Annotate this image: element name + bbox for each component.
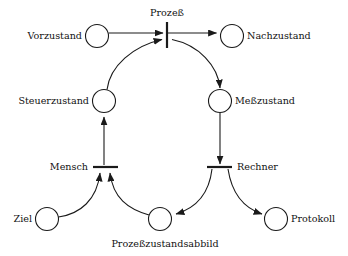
label-mensch: Mensch bbox=[50, 161, 88, 172]
place-prozesszustandsabbild[interactable] bbox=[149, 208, 172, 231]
petri-net-diagram: Vorzustand Nachzustand Steuerzustand Meß… bbox=[0, 0, 348, 256]
place-protokoll[interactable] bbox=[265, 208, 288, 231]
label-rechner: Rechner bbox=[237, 161, 278, 172]
label-prozesszustandsabbild: Prozeßzustandsabbild bbox=[111, 238, 218, 249]
place-vorzustand[interactable] bbox=[86, 25, 109, 48]
label-vorzustand: Vorzustand bbox=[27, 30, 82, 41]
place-nachzustand[interactable] bbox=[221, 25, 244, 48]
arc-prozess-messzustand bbox=[172, 40, 220, 89]
petri-net-canvas: Vorzustand Nachzustand Steuerzustand Meß… bbox=[0, 0, 348, 256]
label-protokoll: Protokoll bbox=[291, 213, 335, 224]
label-prozess: Prozeß bbox=[150, 7, 184, 18]
label-nachzustand: Nachzustand bbox=[247, 30, 311, 41]
place-steuerzustand[interactable] bbox=[93, 90, 116, 113]
arc-ziel-mensch bbox=[59, 173, 101, 217]
label-ziel: Ziel bbox=[14, 213, 32, 224]
label-steuerzustand: Steuerzustand bbox=[18, 95, 89, 106]
place-ziel[interactable] bbox=[36, 208, 59, 231]
label-messzustand: Meßzustand bbox=[235, 95, 295, 106]
arc-abbild-mensch bbox=[110, 173, 149, 215]
arc-rechner-protokoll bbox=[228, 169, 262, 214]
place-messzustand[interactable] bbox=[209, 90, 232, 113]
arc-rechner-abbild bbox=[176, 169, 212, 214]
arc-steuerzustand-prozess bbox=[107, 40, 162, 90]
